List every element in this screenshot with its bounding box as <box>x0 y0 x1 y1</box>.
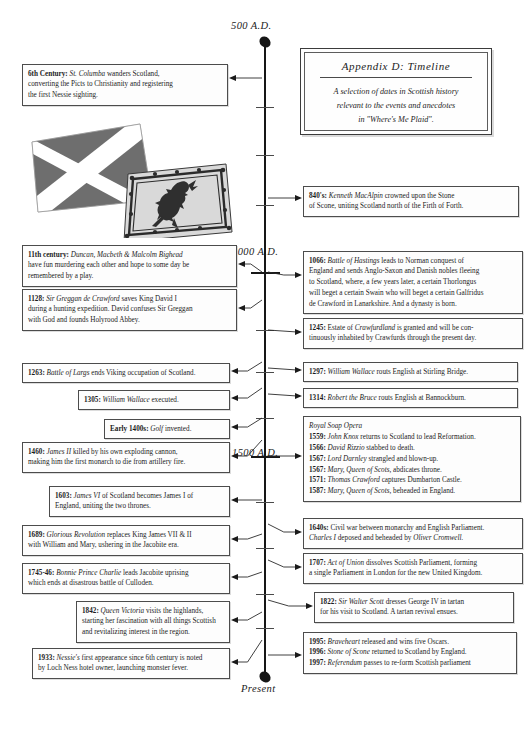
axis-label-500ad: 500 A.D. <box>231 20 272 31</box>
event-date-label: 1997: <box>309 659 326 667</box>
timeline-start-marker <box>257 34 273 50</box>
event-text-line: England and sends Anglo-Saxon and Danish… <box>309 266 517 277</box>
scottish-flags-illustration <box>18 118 236 238</box>
event-date-label: 1571: <box>309 476 326 484</box>
event-text: Civil war between monarchy and English P… <box>329 524 485 532</box>
event-text-line: England, uniting the two thrones. <box>55 501 224 512</box>
event-text: routs English at Stirling Bridge. <box>375 368 468 376</box>
axis-label-1000ad: 1000 A.D. <box>232 246 278 257</box>
event-emphasis: Robert the Bruce <box>326 394 377 402</box>
event-text-line: 1707: Act of Union dissolves Scottish Pa… <box>309 558 517 569</box>
event-emphasis: Battle of Hastings <box>326 257 380 265</box>
event-emphasis: Bonnie Prince Charlie <box>54 569 121 577</box>
event-date-label: 1842: <box>82 607 99 615</box>
event-text: will beget a certain Swain who will bege… <box>309 289 483 297</box>
event-text: abdicates throne. <box>391 466 442 474</box>
event-connector-line <box>268 368 297 370</box>
event-text-line: 1640s: Civil war between monarchy and En… <box>309 523 517 534</box>
event-emphasis: David Rizzio <box>326 444 365 452</box>
event-text-line: 1571: Thomas Crawford captures Dumbarton… <box>309 475 515 486</box>
event-text: returns to Scotland to lead Reformation. <box>359 433 476 441</box>
timeline-event-box: 1460: James II killed by his own explodi… <box>22 442 230 473</box>
event-text-line: 1245: Estate of Crawfurdland is granted … <box>309 323 517 334</box>
event-text: Estate of <box>326 324 355 332</box>
event-text: deposed and beheaded by <box>336 534 413 542</box>
event-date-label: 1567: <box>309 466 326 474</box>
event-emphasis: James VI <box>72 492 100 500</box>
event-text-line: tinuously inhabited by Crawfurds through… <box>309 333 517 344</box>
event-connector-arrowhead <box>231 395 238 401</box>
appendix-title-card: Appendix D: Timeline A selection of date… <box>300 48 492 135</box>
timeline-event-box: Early 1400s: Golf invented. <box>104 419 230 439</box>
event-text: by Loch Ness hotel owner, launching mons… <box>38 664 188 672</box>
event-text-line: 1567: Mary, Queen of Scots, abdicates th… <box>309 465 515 476</box>
event-text-line: during a hunting expedition. David confu… <box>28 304 231 315</box>
event-date-label: 1996: <box>309 648 326 656</box>
event-text-line: 1128: Sir Greggan de Crawford saves King… <box>28 294 231 305</box>
event-connector-arrowhead <box>231 424 238 430</box>
timeline-event-box: 1128: Sir Greggan de Crawford saves King… <box>22 289 237 331</box>
event-text: England, uniting the two thrones. <box>55 502 151 510</box>
event-connector-arrowhead <box>238 261 245 267</box>
event-text: have fun murdering each other and hope t… <box>28 261 189 269</box>
timeline-event-box: 1707: Act of Union dissolves Scottish Pa… <box>303 553 523 584</box>
event-connector-arrowhead <box>231 368 238 374</box>
axis-minor-tick <box>256 418 274 419</box>
timeline-event-box: 1066: Battle of Hastings leads to Norman… <box>303 251 523 314</box>
event-text-line: 1689: Glorious Revolution replaces King … <box>28 530 224 541</box>
event-connector-line <box>236 534 262 539</box>
event-connector-line <box>243 300 262 308</box>
event-connector-arrowhead <box>295 367 302 373</box>
event-text: which ends at disastrous battle of Cullo… <box>28 579 154 587</box>
event-text: killed by his own exploding cannon, <box>71 448 177 456</box>
event-text-line: 1997: Referendum passes to re-form Scott… <box>309 658 511 669</box>
event-text: strangled and blown-up. <box>367 455 438 463</box>
event-text-line: 1822: Sir Walter Scott dresses George IV… <box>320 597 508 608</box>
event-connector-arrowhead <box>295 195 302 201</box>
event-text-line: will beget a certain Swain who will bege… <box>309 288 517 299</box>
event-emphasis: John Knox <box>326 433 359 441</box>
event-date-label: Early 1400s: <box>110 425 149 433</box>
event-date-label: 1933: <box>38 654 55 662</box>
event-text-line: Charles I deposed and beheaded by Oliver… <box>309 533 517 544</box>
subtitle-line-2: relevant to the events and anecdotes <box>314 99 478 113</box>
event-text-line: de Crawford in Lanarkshire. And a dynast… <box>309 299 517 310</box>
event-emphasis: St. Columba <box>68 70 105 78</box>
event-text-line: to Scotland, where, a few years later, a… <box>309 277 517 288</box>
event-text: beheaded in England. <box>391 487 455 495</box>
event-emphasis: Lord Darnley <box>326 455 367 463</box>
event-text: dissolves Scottish Parliament, forming <box>364 559 477 567</box>
event-emphasis: William Wallace <box>101 396 150 404</box>
event-date-label: 1460: <box>28 448 45 456</box>
timeline-event-box: 1263: Battle of Largs ends Viking occupa… <box>22 363 230 383</box>
event-text: replaces King James VII & II <box>105 531 192 539</box>
event-date-label: 840's: <box>309 192 327 200</box>
event-connector-line <box>236 612 262 620</box>
timeline-event-box: 840's: Kenneth MacAlpin crowned upon the… <box>303 186 519 217</box>
event-date-label: 1066: <box>309 257 326 265</box>
event-text-line: making him the first monarch to die from… <box>28 457 224 468</box>
event-date-label: 1745-46: <box>28 569 54 577</box>
appendix-subtitle: A selection of dates in Scottish history… <box>314 85 478 127</box>
event-text-line: 1587: Mary, Queen of Scots, beheaded in … <box>309 486 515 497</box>
event-text-line: of Scone, uniting Scotland north of the … <box>309 201 513 212</box>
event-text-line: 1603: James VI of Scotland becomes James… <box>55 491 224 502</box>
event-text-line: 1297: William Wallace routs English at S… <box>309 367 512 378</box>
axis-minor-tick <box>256 502 274 503</box>
event-text-line: 1567: Lord Darnley strangled and blown-u… <box>309 454 515 465</box>
event-connector-arrowhead <box>295 329 302 335</box>
axis-minor-tick <box>256 155 274 156</box>
timeline-axis-line <box>264 41 266 678</box>
event-text-line: 1066: Battle of Hastings leads to Norman… <box>309 256 517 267</box>
event-emphasis: Oliver Cromwell. <box>413 534 463 542</box>
event-emphasis: William Wallace <box>326 368 375 376</box>
event-emphasis: Golf <box>149 425 164 433</box>
event-text: a single Parliament in London for the ne… <box>309 569 482 577</box>
event-connector-arrowhead <box>231 497 238 503</box>
event-date-label: 1640s: <box>309 524 329 532</box>
event-text: starting her fascination with all things… <box>82 617 216 625</box>
event-text-line: 1305: William Wallace executed. <box>84 395 224 406</box>
event-emphasis: Braveheart <box>326 638 360 646</box>
event-connector-arrowhead <box>229 75 236 81</box>
event-date-label: 1707: <box>309 559 326 567</box>
